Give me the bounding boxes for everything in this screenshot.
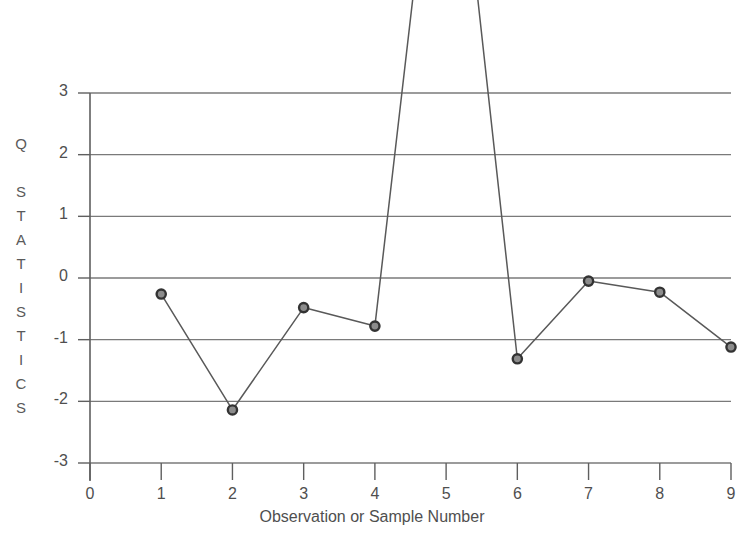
x-axis-tick-label: 0 [75,485,105,503]
data-point-marker [655,288,664,297]
data-series [157,0,736,415]
x-axis-tick-label: 2 [217,485,247,503]
data-point-marker [726,342,735,351]
data-point-marker [157,289,166,298]
x-axis-tick-label: 5 [431,485,461,503]
x-axis-ticks [90,463,731,480]
y-axis-tick-label: -3 [32,452,68,470]
chart-container: Q S T A T I S T I C S 3210-1-2-3 0123456… [0,0,744,537]
data-point-marker [513,354,522,363]
y-axis-ticks [78,93,90,463]
plot-area [0,0,744,537]
x-axis-tick-label: 3 [289,485,319,503]
data-point-marker [370,322,379,331]
y-axis-tick-label: 2 [32,144,68,162]
data-point-marker [584,276,593,285]
series-line [161,0,731,410]
y-axis-tick-label: 1 [32,205,68,223]
x-axis-tick-label: 6 [502,485,532,503]
x-axis-title: Observation or Sample Number [0,508,744,526]
x-axis-tick-label: 1 [146,485,176,503]
y-axis-tick-label: -1 [32,329,68,347]
x-axis-tick-label: 9 [716,485,744,503]
x-axis-tick-label: 4 [360,485,390,503]
y-axis-tick-label: -2 [32,390,68,408]
y-axis-tick-label: 3 [32,82,68,100]
y-axis-tick-label: 0 [32,267,68,285]
data-point-marker [228,405,237,414]
x-axis-tick-label: 8 [645,485,675,503]
gridlines [90,93,731,463]
x-axis-tick-label: 7 [574,485,604,503]
data-point-marker [299,303,308,312]
